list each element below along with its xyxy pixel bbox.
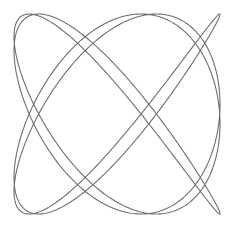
- lissajous-figure: [0, 0, 236, 231]
- figure-background: [0, 0, 236, 231]
